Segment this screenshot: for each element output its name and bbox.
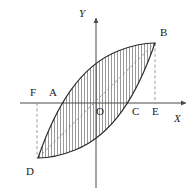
- point-label-d: D: [26, 166, 34, 177]
- point-label-b: B: [160, 27, 167, 38]
- point-label-e: E: [152, 106, 159, 117]
- point-label-a: A: [49, 87, 57, 98]
- geometry-figure: YBFAOCEXD: [0, 0, 193, 191]
- point-label-f: F: [30, 87, 36, 98]
- point-label-o: O: [96, 106, 104, 117]
- point-label-c: C: [132, 106, 139, 117]
- point-label-y: Y: [79, 8, 85, 19]
- point-label-x: X: [174, 113, 181, 124]
